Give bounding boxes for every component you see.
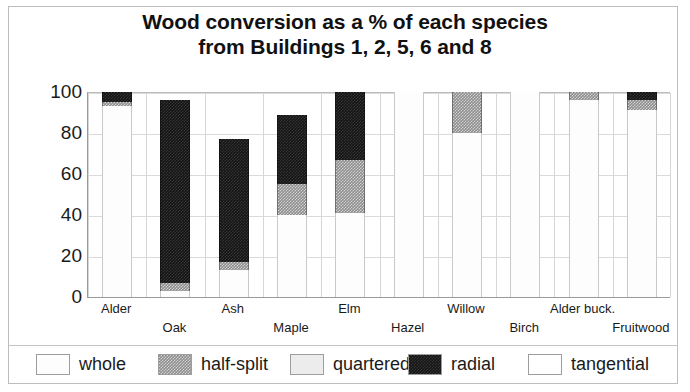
x-axis-label-hazel: Hazel	[391, 320, 424, 335]
bar-segment-fruitwood-radial[interactable]	[627, 92, 657, 100]
bar-segment-ash-radial[interactable]	[219, 139, 249, 262]
bar-segment-fruitwood-half-split[interactable]	[627, 100, 657, 110]
x-axis-label-fruitwood: Fruitwood	[612, 320, 669, 335]
swatch-half-split-icon	[158, 354, 192, 375]
swatch-radial-icon	[408, 354, 442, 375]
bar-willow[interactable]	[452, 92, 482, 297]
bar-segment-alder-buck-whole[interactable]	[569, 100, 599, 297]
x-axis-label-alder-buck: Alder buck.	[550, 301, 615, 316]
chart-figure: Wood conversion as a % of each species f…	[0, 0, 690, 392]
legend-label-half-split: half-split	[201, 354, 268, 375]
gridline-vertical	[88, 93, 89, 297]
legend-item-tangential[interactable]: tangential	[528, 354, 649, 375]
legend-label-tangential: tangential	[571, 354, 649, 375]
y-axis-tick-label: 60	[4, 163, 82, 185]
bar-segment-alder-buck-half-split[interactable]	[569, 92, 599, 100]
bar-segment-hazel-whole[interactable]	[394, 92, 424, 297]
bar-segment-oak-half-split[interactable]	[160, 283, 190, 291]
legend-label-quartered: quartered	[333, 354, 410, 375]
y-axis: 020406080100	[0, 0, 82, 392]
bar-birch[interactable]	[510, 92, 540, 297]
x-axis-line	[87, 297, 670, 298]
gridline-vertical	[554, 93, 555, 297]
y-axis-tick-label: 20	[4, 245, 82, 267]
y-axis-tick-label: 100	[4, 81, 82, 103]
x-axis-label-alder: Alder	[101, 301, 131, 316]
bar-segment-maple-whole[interactable]	[277, 215, 307, 297]
gridline-vertical	[496, 93, 497, 297]
bar-segment-alder-radial[interactable]	[102, 92, 132, 102]
x-axis-label-willow: Willow	[447, 301, 485, 316]
y-axis-tick-label: 40	[4, 204, 82, 226]
x-axis-label-elm: Elm	[338, 301, 360, 316]
bar-hazel[interactable]	[394, 92, 424, 297]
bar-oak[interactable]	[160, 100, 190, 297]
bar-segment-elm-whole[interactable]	[335, 213, 365, 297]
chart-legend: wholehalf-splitquarteredradialtangential	[8, 345, 678, 383]
gridline-vertical	[438, 93, 439, 297]
bar-segment-maple-half-split[interactable]	[277, 184, 307, 215]
swatch-quartered-icon	[290, 354, 324, 375]
gridline-vertical	[263, 93, 264, 297]
legend-item-whole[interactable]: whole	[36, 354, 126, 375]
plot-wrapper: 020406080100 AlderOakAshMapleElmHazelWil…	[0, 0, 690, 392]
legend-label-radial: radial	[451, 354, 495, 375]
bar-segment-birch-whole[interactable]	[510, 92, 540, 297]
bar-segment-ash-half-split[interactable]	[219, 262, 249, 270]
x-axis-label-ash: Ash	[222, 301, 244, 316]
bar-segment-alder-whole[interactable]	[102, 106, 132, 297]
plot-area	[87, 92, 670, 297]
y-axis-tick-label: 0	[4, 286, 82, 308]
bar-alder-buck[interactable]	[569, 92, 599, 297]
bar-segment-willow-whole[interactable]	[452, 133, 482, 297]
gridline-vertical	[146, 93, 147, 297]
gridline-vertical	[321, 93, 322, 297]
swatch-whole-icon	[36, 354, 70, 375]
bar-segment-elm-radial[interactable]	[335, 92, 365, 160]
bar-segment-maple-radial[interactable]	[277, 115, 307, 185]
bar-segment-oak-radial[interactable]	[160, 100, 190, 282]
bar-segment-elm-half-split[interactable]	[335, 160, 365, 213]
gridline-vertical	[670, 93, 671, 297]
bar-elm[interactable]	[335, 92, 365, 297]
legend-item-radial[interactable]: radial	[408, 354, 495, 375]
bar-segment-fruitwood-whole[interactable]	[627, 110, 657, 297]
bar-segment-ash-whole[interactable]	[219, 270, 249, 297]
x-axis-label-maple: Maple	[273, 320, 308, 335]
bar-fruitwood[interactable]	[627, 92, 657, 297]
legend-item-half-split[interactable]: half-split	[158, 354, 268, 375]
swatch-tangential-icon	[528, 354, 562, 375]
y-axis-tick-label: 80	[4, 122, 82, 144]
bar-maple[interactable]	[277, 115, 307, 297]
gridline-vertical	[613, 93, 614, 297]
x-axis-label-oak: Oak	[163, 320, 187, 335]
legend-label-whole: whole	[79, 354, 126, 375]
gridline-vertical	[380, 93, 381, 297]
legend-item-quartered[interactable]: quartered	[290, 354, 410, 375]
bar-ash[interactable]	[219, 139, 249, 297]
bar-segment-willow-half-split[interactable]	[452, 92, 482, 133]
gridline-vertical	[205, 93, 206, 297]
bar-alder[interactable]	[102, 92, 132, 297]
x-axis-label-birch: Birch	[509, 320, 539, 335]
